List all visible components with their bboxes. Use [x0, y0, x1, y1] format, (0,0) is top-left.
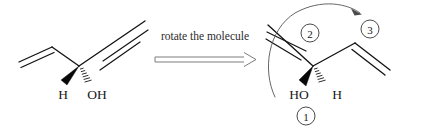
rotation-arc-icon	[268, 4, 362, 97]
left-alkyne-triple-bond	[79, 21, 148, 70]
transformation-caption: rotate the molecule	[155, 30, 256, 67]
caption-label: rotate the molecule	[161, 30, 249, 42]
reaction-diagram: H OH rotate the molecule	[0, 0, 422, 131]
right-label-hydroxyl: HO	[289, 87, 309, 102]
right-alkyne-triple-bond	[266, 25, 313, 66]
left-molecule: H OH	[19, 21, 148, 102]
right-hash-to-hydrogen	[314, 68, 325, 82]
priority-number-2-label: 2	[307, 28, 313, 40]
right-wedge-to-hydroxyl	[299, 66, 313, 86]
right-molecule: HO H 1 2 3	[266, 4, 390, 125]
priority-number-3: 3	[361, 20, 379, 38]
priority-number-1: 1	[297, 107, 315, 125]
left-vinyl-double-bond	[19, 47, 79, 68]
priority-number-1-label: 1	[303, 111, 309, 123]
double-line-right-arrow-icon	[155, 53, 256, 67]
left-label-hydrogen: H	[58, 87, 68, 102]
left-label-hydroxyl: OH	[87, 87, 107, 102]
priority-number-2: 2	[301, 24, 319, 42]
left-wedge-to-hydrogen	[61, 66, 79, 85]
priority-number-3-label: 3	[367, 24, 373, 36]
right-vinyl-double-bond	[313, 43, 390, 75]
left-hash-to-hydroxyl	[80, 68, 91, 82]
right-label-hydrogen: H	[332, 87, 342, 102]
